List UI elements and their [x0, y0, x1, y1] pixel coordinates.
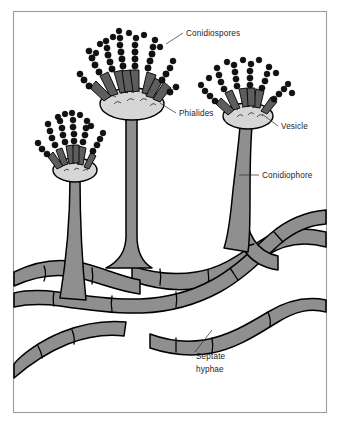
conidiophore-right	[198, 57, 295, 252]
diagram-root: Conidiospores Phialides Vesicle Conidiop…	[0, 0, 340, 428]
stalk-left	[60, 178, 86, 300]
label-phialides-text: Phialides	[179, 109, 214, 118]
label-phialides[interactable]: Phialides	[160, 103, 214, 118]
label-conidiospores-text: Conidiospores	[186, 29, 240, 38]
leader-conidiospores	[166, 33, 183, 44]
label-septate-hyphae-line1: Septate	[196, 352, 226, 361]
label-conidiophore-text: Conidiophore	[262, 171, 313, 180]
label-conidiospores[interactable]: Conidiospores	[166, 29, 240, 44]
hypha-lower-left	[14, 321, 126, 378]
stalk-center	[106, 112, 152, 268]
aspergillus-diagram: Conidiospores Phialides Vesicle Conidiop…	[0, 0, 340, 428]
label-vesicle-text: Vesicle	[281, 122, 308, 131]
label-septate-hyphae-line2: hyphae	[196, 365, 224, 374]
stalk-right	[224, 126, 252, 252]
